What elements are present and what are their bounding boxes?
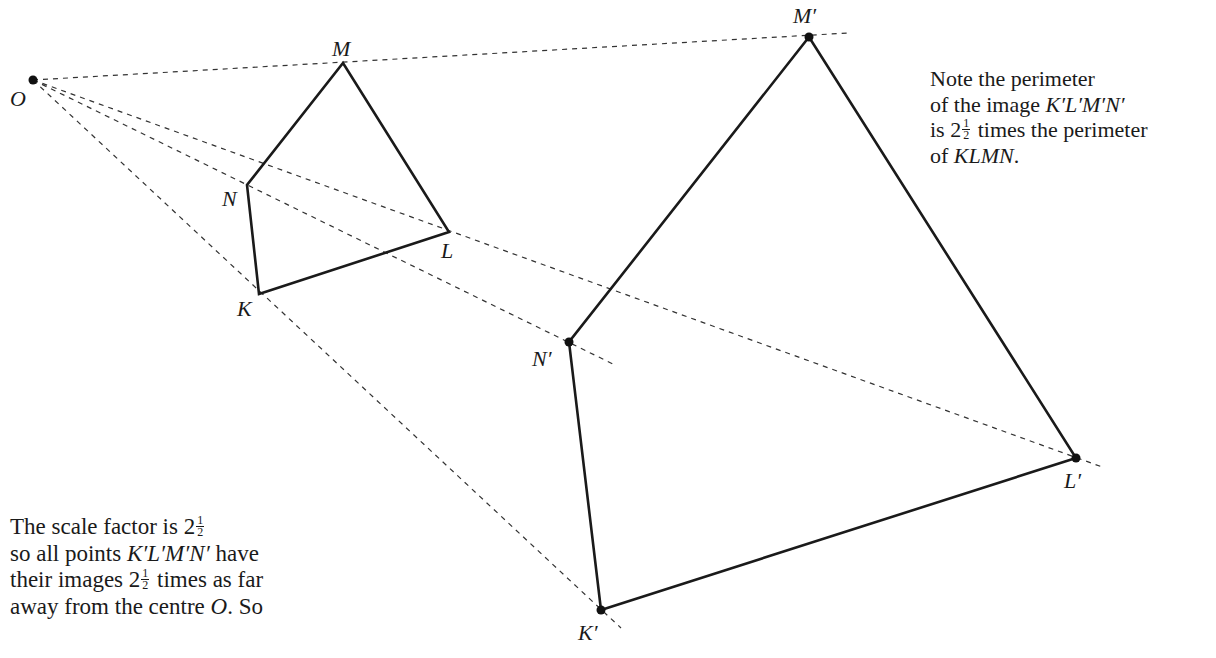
point-l-prime	[1072, 454, 1081, 463]
quadrilateral-klmn	[247, 63, 449, 294]
ray-to-m-prime	[33, 33, 848, 80]
scale-note-line-4: away from the centre O. So	[10, 594, 263, 621]
ray-to-n-prime	[33, 80, 615, 365]
denominator: 2	[196, 527, 204, 538]
label-n-prime: N′	[531, 346, 553, 371]
text: have	[210, 541, 259, 566]
text: of the image	[930, 92, 1045, 117]
text: times as far	[151, 567, 263, 592]
label-l: L	[440, 238, 453, 263]
label-n: N	[221, 186, 238, 211]
centre-name: O	[211, 594, 228, 619]
point-m-prime	[805, 33, 814, 42]
perimeter-note-line-2: of the image K′L′M′N′	[930, 92, 1148, 118]
text: away from the centre	[10, 594, 211, 619]
label-o: O	[10, 86, 26, 111]
text: .	[1014, 143, 1020, 168]
image-name: K′L′M′N′	[1045, 92, 1124, 117]
label-m: M	[331, 36, 352, 61]
point-o	[29, 76, 38, 85]
object-name: KLMN	[954, 143, 1014, 168]
denominator: 2	[141, 580, 149, 591]
scale-note-line-1: The scale factor is 212	[10, 514, 263, 541]
scale-factor-note: The scale factor is 212 so all points K′…	[10, 514, 263, 620]
scale-note-line-3: their images 212 times as far	[10, 567, 263, 594]
text: of	[930, 143, 954, 168]
image-name: K′L′M′N′	[127, 541, 210, 566]
label-m-prime: M′	[792, 3, 817, 28]
perimeter-note: Note the perimeter of the image K′L′M′N′…	[930, 66, 1148, 169]
perimeter-note-line-1: Note the perimeter	[930, 66, 1148, 92]
text: The scale factor is 2	[10, 514, 195, 539]
fraction-one-half: 12	[196, 515, 204, 538]
text: times the perimeter	[972, 117, 1147, 142]
perimeter-note-line-4: of KLMN.	[930, 143, 1148, 169]
point-n-prime	[565, 338, 574, 347]
point-k-prime	[597, 606, 606, 615]
text: their images 2	[10, 567, 140, 592]
text: . So	[227, 594, 263, 619]
fraction-one-half: 12	[962, 118, 970, 141]
perimeter-note-line-3: is 212 times the perimeter	[930, 117, 1148, 143]
scale-note-line-2: so all points K′L′M′N′ have	[10, 541, 263, 568]
label-k: K	[236, 296, 253, 321]
text: so all points	[10, 541, 127, 566]
label-k-prime: K′	[577, 620, 599, 645]
label-l-prime: L′	[1063, 468, 1082, 493]
text: is 2	[930, 117, 961, 142]
fraction-one-half: 12	[141, 568, 149, 591]
denominator: 2	[962, 130, 970, 141]
